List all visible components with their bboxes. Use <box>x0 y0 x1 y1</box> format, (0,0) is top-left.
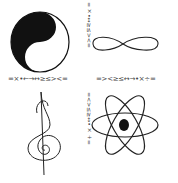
treble-clef-icon <box>28 92 60 175</box>
divider-text-right: =><≥≤↔→•×÷= <box>96 74 155 84</box>
infinity-icon <box>93 37 158 50</box>
divider-text-bottom: =<>≤≥↔•×÷= <box>84 92 94 182</box>
atom-icon <box>92 90 158 159</box>
vertical-symbol-divider: =×•↔≥≤><= =<>≤≥↔•×÷= <box>84 2 94 182</box>
divider-text-top: =×•↔≥≤><= <box>84 2 94 70</box>
yin-yang-icon <box>11 12 69 72</box>
divider-text-left: =×•←→↔≥≤><= <box>8 74 67 84</box>
